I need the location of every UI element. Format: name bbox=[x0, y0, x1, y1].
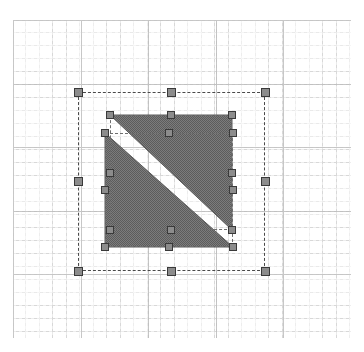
handle-w[interactable] bbox=[106, 169, 114, 177]
handle-e[interactable] bbox=[261, 177, 270, 186]
handle-se[interactable] bbox=[261, 267, 270, 276]
handle-se[interactable] bbox=[229, 243, 237, 251]
handle-w[interactable] bbox=[74, 177, 83, 186]
handle-sw[interactable] bbox=[101, 243, 109, 251]
handle-s[interactable] bbox=[167, 226, 175, 234]
handle-ne[interactable] bbox=[261, 88, 270, 97]
handle-nw[interactable] bbox=[106, 111, 114, 119]
handle-n[interactable] bbox=[165, 129, 173, 137]
handle-ne[interactable] bbox=[228, 111, 236, 119]
handle-sw[interactable] bbox=[74, 267, 83, 276]
handle-nw[interactable] bbox=[74, 88, 83, 97]
handle-se[interactable] bbox=[228, 226, 236, 234]
vector-drawing-canvas[interactable] bbox=[0, 0, 364, 352]
handle-s[interactable] bbox=[167, 267, 176, 276]
handle-sw[interactable] bbox=[106, 226, 114, 234]
handle-n[interactable] bbox=[167, 111, 175, 119]
shape-layer bbox=[0, 0, 364, 352]
handle-e[interactable] bbox=[228, 169, 236, 177]
handle-s[interactable] bbox=[165, 243, 173, 251]
handle-w[interactable] bbox=[101, 186, 109, 194]
handle-nw[interactable] bbox=[101, 129, 109, 137]
handle-e[interactable] bbox=[229, 186, 237, 194]
handle-ne[interactable] bbox=[229, 129, 237, 137]
handle-n[interactable] bbox=[167, 88, 176, 97]
